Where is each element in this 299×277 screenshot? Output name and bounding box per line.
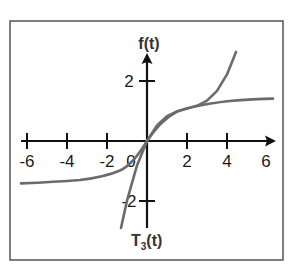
x-tick-label: 2 xyxy=(182,152,191,171)
y-axis-title: f(t) xyxy=(138,35,159,52)
x-tick-label: -4 xyxy=(59,152,74,171)
t3-label-main: T xyxy=(131,232,141,249)
chart: -6 -4 -2 0 2 4 6 2 -2 f(t) T3(t) xyxy=(0,0,299,277)
x-tick-label: -6 xyxy=(19,152,34,171)
x-tick-label: 6 xyxy=(261,152,270,171)
t3-label-tail: (t) xyxy=(146,232,162,249)
y-tick-label: 2 xyxy=(124,72,133,91)
x-tick-label: -2 xyxy=(99,152,114,171)
x-tick-label: 4 xyxy=(222,152,231,171)
